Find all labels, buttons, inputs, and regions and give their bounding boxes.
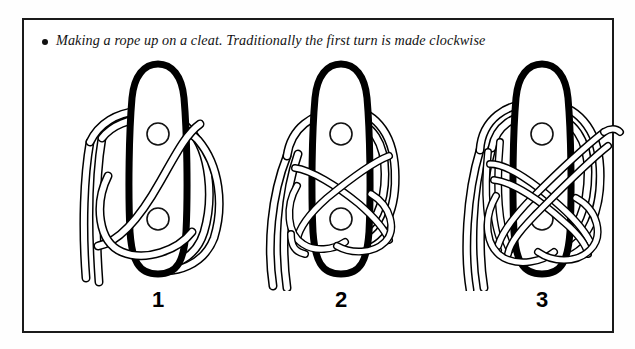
panel-number-1: 1 (68, 289, 248, 311)
figure-panels: 1 (24, 46, 612, 331)
cleat-illustration-3 (452, 46, 632, 291)
rope-free-end-3 (604, 129, 620, 132)
cleat-hole-upper-1 (147, 123, 169, 145)
figure-page: Making a rope up on a cleat. Traditional… (0, 0, 635, 349)
cleat-hole-lower-1 (147, 208, 169, 230)
panel-cleat-step-three: 3 (452, 46, 632, 331)
cleat-hole-lower-2 (330, 208, 352, 230)
cleat-illustration-1 (68, 46, 248, 291)
cleat-hole-upper-3 (531, 123, 553, 145)
panel-cleat-step-one: 1 (68, 46, 248, 331)
cleat-illustration-2 (251, 46, 431, 291)
panel-cleat-step-two: 2 (251, 46, 431, 331)
bullet-dot-icon (42, 39, 48, 45)
cleat-hole-upper-2 (330, 123, 352, 145)
panel-number-2: 2 (251, 289, 431, 311)
figure-frame: Making a rope up on a cleat. Traditional… (22, 18, 614, 333)
panel-number-3: 3 (452, 289, 632, 311)
rope-tails-left-2 (270, 154, 298, 288)
